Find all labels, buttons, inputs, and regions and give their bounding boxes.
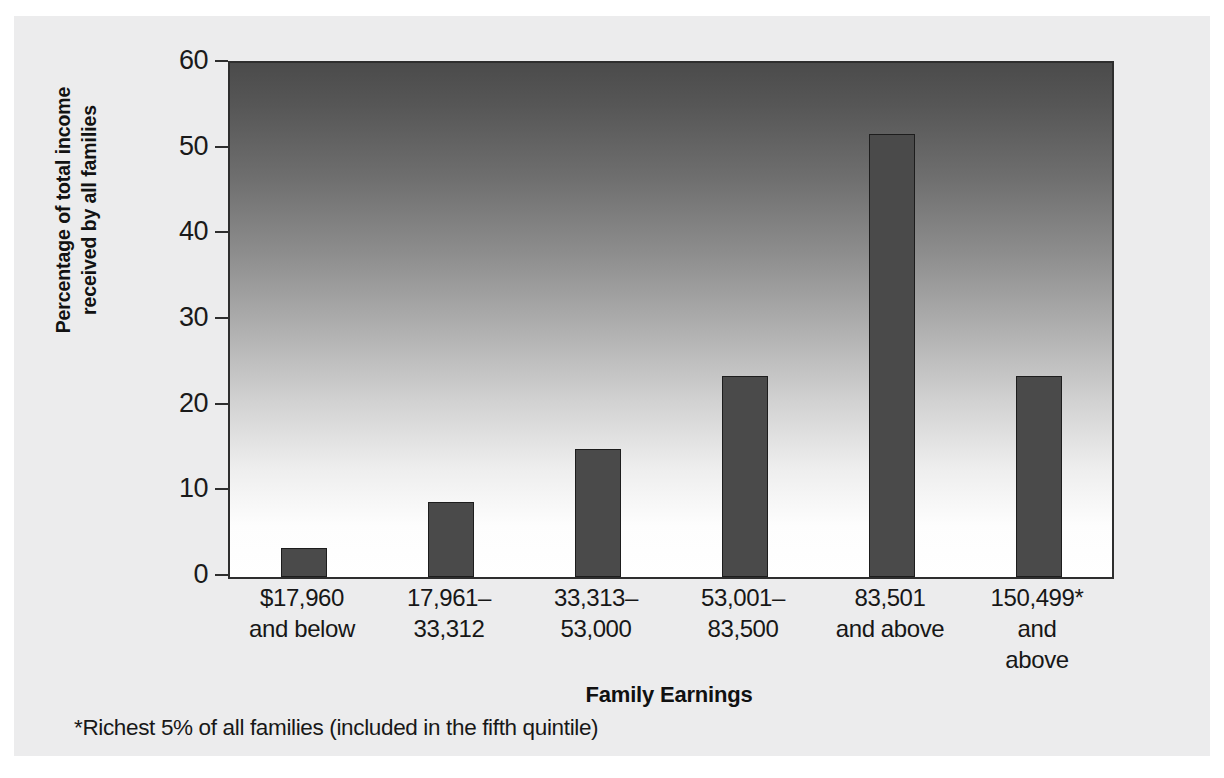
y-axis: 60 50 40 30 20 10 0	[14, 16, 228, 620]
bar-quintile-4[interactable]	[722, 376, 768, 577]
y-tick-label-20: 20	[179, 388, 208, 418]
y-axis-title-line1: Percentage of total income	[50, 60, 76, 360]
figure-card: 60 50 40 30 20 10 0 Percentage of total	[14, 16, 1210, 756]
y-tick-label-40: 40	[179, 216, 208, 246]
x-label-line: 150,499*	[942, 582, 1132, 613]
y-axis-title-line2: received by all families	[76, 60, 102, 360]
bar-quintile-5[interactable]	[869, 134, 915, 577]
x-label-line: above	[942, 644, 1132, 675]
y-tick-label-0: 0	[193, 559, 208, 589]
chart-footnote: *Richest 5% of all families (included in…	[74, 715, 598, 741]
plot-area	[228, 61, 1114, 579]
y-tick-mark	[215, 231, 228, 233]
bar-quintile-1[interactable]	[281, 548, 327, 577]
y-tick-label-60: 60	[179, 45, 208, 75]
y-tick-label-30: 30	[179, 302, 208, 332]
y-tick-label-10: 10	[179, 473, 208, 503]
y-tick-mark	[215, 60, 228, 62]
x-axis-title: Family Earnings	[228, 682, 1110, 708]
y-tick-mark	[215, 574, 228, 576]
y-axis-title: Percentage of total income received by a…	[50, 60, 102, 360]
y-tick-mark	[215, 146, 228, 148]
y-tick-mark	[215, 317, 228, 319]
y-tick-mark	[215, 488, 228, 490]
x-axis-labels: $17,960 and below 17,961– 33,312 33,313–…	[228, 582, 1110, 682]
bar-richest-5-percent[interactable]	[1016, 376, 1062, 577]
bar-quintile-3[interactable]	[575, 449, 621, 578]
y-tick-mark	[215, 403, 228, 405]
x-label-line: and	[942, 613, 1132, 644]
x-label-richest-5-percent: 150,499* and above	[942, 582, 1132, 675]
y-tick-label-50: 50	[179, 131, 208, 161]
bar-quintile-2[interactable]	[428, 502, 474, 577]
